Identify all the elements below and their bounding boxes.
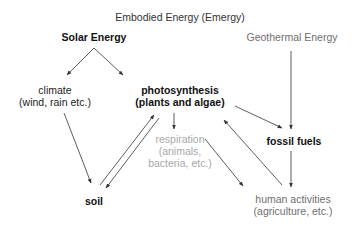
arrow-photosynthesis-to-fossil-fuels [235,106,282,128]
arrow-climate-to-soil [64,113,91,183]
arrow-respiration-to-human [205,139,243,186]
arrows-layer [0,0,359,226]
arrow-photosynthesis-to-soil [106,118,159,188]
arrow-solar-to-climate [67,48,94,75]
arrow-human-to-photosynthesis [224,120,282,185]
arrow-solar-to-photosynthesis [94,48,123,75]
arrow-soil-to-photosynthesis [100,115,154,185]
